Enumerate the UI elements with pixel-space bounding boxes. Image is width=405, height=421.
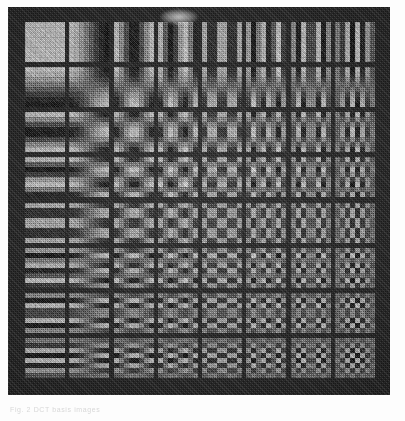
basis-cell-1-7 — [335, 67, 375, 107]
basis-image-4-2 — [114, 203, 154, 243]
basis-image-2-0 — [25, 112, 65, 152]
basis-cell-3-0 — [25, 157, 65, 197]
basis-cell-1-0 — [25, 67, 65, 107]
basis-image-7-7 — [335, 338, 375, 378]
basis-image-3-4 — [202, 157, 242, 197]
basis-cell-3-5 — [246, 157, 286, 197]
basis-image-5-1 — [69, 248, 109, 288]
basis-cell-5-6 — [291, 248, 331, 288]
basis-panel — [8, 7, 390, 395]
basis-cell-1-5 — [246, 67, 286, 107]
basis-image-4-4 — [202, 203, 242, 243]
basis-cell-7-1 — [69, 338, 109, 378]
basis-cell-1-4 — [202, 67, 242, 107]
basis-image-3-7 — [335, 157, 375, 197]
basis-cell-2-3 — [158, 112, 198, 152]
basis-image-0-1 — [69, 22, 109, 62]
basis-cell-2-0 — [25, 112, 65, 152]
basis-image-3-1 — [69, 157, 109, 197]
basis-image-6-2 — [114, 293, 154, 333]
basis-image-4-1 — [69, 203, 109, 243]
basis-image-4-3 — [158, 203, 198, 243]
basis-image-3-5 — [246, 157, 286, 197]
basis-cell-7-7 — [335, 338, 375, 378]
basis-cell-2-4 — [202, 112, 242, 152]
basis-image-0-7 — [335, 22, 375, 62]
basis-cell-5-5 — [246, 248, 286, 288]
basis-cell-2-6 — [291, 112, 331, 152]
basis-image-5-7 — [335, 248, 375, 288]
basis-image-6-1 — [69, 293, 109, 333]
basis-cell-0-1 — [69, 22, 109, 62]
basis-cell-6-6 — [291, 293, 331, 333]
basis-image-1-4 — [202, 67, 242, 107]
basis-cell-0-3 — [158, 22, 198, 62]
basis-image-6-5 — [246, 293, 286, 333]
basis-cell-5-4 — [202, 248, 242, 288]
basis-image-1-2 — [114, 67, 154, 107]
basis-image-4-7 — [335, 203, 375, 243]
basis-cell-6-1 — [69, 293, 109, 333]
basis-image-0-3 — [158, 22, 198, 62]
basis-cell-5-2 — [114, 248, 154, 288]
basis-cell-0-4 — [202, 22, 242, 62]
basis-cell-4-3 — [158, 203, 198, 243]
basis-image-7-1 — [69, 338, 109, 378]
basis-cell-7-5 — [246, 338, 286, 378]
basis-cell-6-2 — [114, 293, 154, 333]
basis-image-1-1 — [69, 67, 109, 107]
basis-cell-7-6 — [291, 338, 331, 378]
basis-image-2-3 — [158, 112, 198, 152]
basis-image-2-5 — [246, 112, 286, 152]
basis-cell-5-3 — [158, 248, 198, 288]
basis-image-1-6 — [291, 67, 331, 107]
basis-cell-0-0 — [25, 22, 65, 62]
basis-cell-5-7 — [335, 248, 375, 288]
basis-image-1-3 — [158, 67, 198, 107]
basis-cell-4-4 — [202, 203, 242, 243]
basis-cell-1-6 — [291, 67, 331, 107]
basis-image-1-7 — [335, 67, 375, 107]
basis-image-2-7 — [335, 112, 375, 152]
basis-cell-2-7 — [335, 112, 375, 152]
basis-cell-3-6 — [291, 157, 331, 197]
basis-image-4-6 — [291, 203, 331, 243]
basis-image-5-4 — [202, 248, 242, 288]
basis-cell-0-2 — [114, 22, 154, 62]
basis-image-7-6 — [291, 338, 331, 378]
basis-cell-2-5 — [246, 112, 286, 152]
basis-image-3-2 — [114, 157, 154, 197]
basis-cell-6-4 — [202, 293, 242, 333]
basis-cell-0-6 — [291, 22, 331, 62]
basis-cell-4-1 — [69, 203, 109, 243]
basis-cell-3-4 — [202, 157, 242, 197]
basis-grid — [25, 22, 375, 378]
basis-image-2-1 — [69, 112, 109, 152]
basis-cell-4-6 — [291, 203, 331, 243]
basis-image-5-2 — [114, 248, 154, 288]
basis-image-6-4 — [202, 293, 242, 333]
basis-image-5-6 — [291, 248, 331, 288]
basis-image-6-3 — [158, 293, 198, 333]
basis-cell-5-0 — [25, 248, 65, 288]
basis-cell-5-1 — [69, 248, 109, 288]
basis-image-2-4 — [202, 112, 242, 152]
basis-cell-0-5 — [246, 22, 286, 62]
basis-cell-7-0 — [25, 338, 65, 378]
figure-caption: Fig. 2 DCT basis images — [10, 404, 190, 416]
basis-cell-2-2 — [114, 112, 154, 152]
basis-cell-7-4 — [202, 338, 242, 378]
basis-image-3-6 — [291, 157, 331, 197]
basis-cell-6-3 — [158, 293, 198, 333]
basis-image-1-0 — [25, 67, 65, 107]
basis-image-6-6 — [291, 293, 331, 333]
basis-image-6-7 — [335, 293, 375, 333]
basis-image-3-0 — [25, 157, 65, 197]
basis-image-7-5 — [246, 338, 286, 378]
basis-image-5-0 — [25, 248, 65, 288]
basis-image-5-5 — [246, 248, 286, 288]
basis-cell-4-5 — [246, 203, 286, 243]
basis-cell-3-3 — [158, 157, 198, 197]
basis-cell-0-7 — [335, 22, 375, 62]
basis-cell-3-2 — [114, 157, 154, 197]
